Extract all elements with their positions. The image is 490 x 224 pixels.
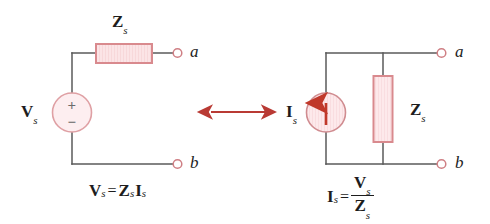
right-equation-denominator: Zs [351, 195, 374, 217]
right-equation-denominator-main: Z [354, 196, 365, 215]
right-impedance-label-main: Z [410, 100, 421, 119]
left-terminal-node-b [173, 160, 182, 169]
voltage-source-label-sub: s [33, 114, 37, 126]
left-equation-lhs-sub: s [101, 188, 105, 199]
voltage-source-minus-sign: − [68, 115, 77, 130]
current-source-label-sub: s [293, 114, 297, 126]
left-terminal-label-b: b [190, 154, 199, 171]
left-terminal-node-a [173, 49, 182, 58]
right-equation-lhs-main: I [327, 188, 334, 205]
right-terminal-label-b: b [455, 154, 464, 171]
right-equation-denominator-sub: s [366, 209, 370, 221]
left-impedance-label: Zs [112, 13, 128, 33]
left-terminal-label-a: a [190, 43, 199, 60]
right-equation-numerator-main: V [354, 173, 366, 192]
current-source-label-main: I [286, 102, 293, 121]
right-equation-fraction: Vs Zs [351, 174, 374, 218]
right-terminal-node-a [437, 49, 446, 58]
left-equation-rhs-first-main: Z [119, 182, 130, 199]
right-impedance-box [374, 76, 393, 142]
voltage-source-plus-sign: + [68, 98, 77, 113]
current-source-symbol [307, 93, 346, 132]
voltage-source-label: Vs [21, 103, 38, 123]
current-source-label: Is [286, 103, 297, 123]
left-equation-lhs-main: V [89, 182, 101, 199]
right-equation-lhs-sub: s [334, 194, 338, 205]
right-equation: Is = Vs Zs [327, 175, 374, 219]
right-impedance-label-sub: s [421, 112, 425, 124]
voltage-source-label-main: V [21, 102, 33, 121]
left-equation-rhs-second-main: I [135, 182, 142, 199]
right-equation-operator: = [338, 189, 351, 205]
right-equation-numerator-sub: s [366, 185, 370, 197]
left-equation-rhs-second-sub: s [142, 188, 146, 199]
right-impedance-label: Zs [410, 101, 426, 121]
circuit-figure: Zs Vs + − a b Vs = ZsIs Is Zs a b Is = V… [0, 0, 490, 224]
right-terminal-label-a: a [455, 43, 464, 60]
left-equation-rhs-first-sub: s [130, 188, 134, 199]
right-equation-numerator: Vs [351, 174, 374, 195]
left-impedance-label-sub: s [123, 24, 127, 36]
left-impedance-label-main: Z [112, 12, 123, 31]
left-equation: Vs = ZsIs [89, 182, 146, 199]
left-impedance-box [96, 44, 152, 63]
right-terminal-node-b [437, 160, 446, 169]
left-equation-operator: = [106, 183, 119, 199]
